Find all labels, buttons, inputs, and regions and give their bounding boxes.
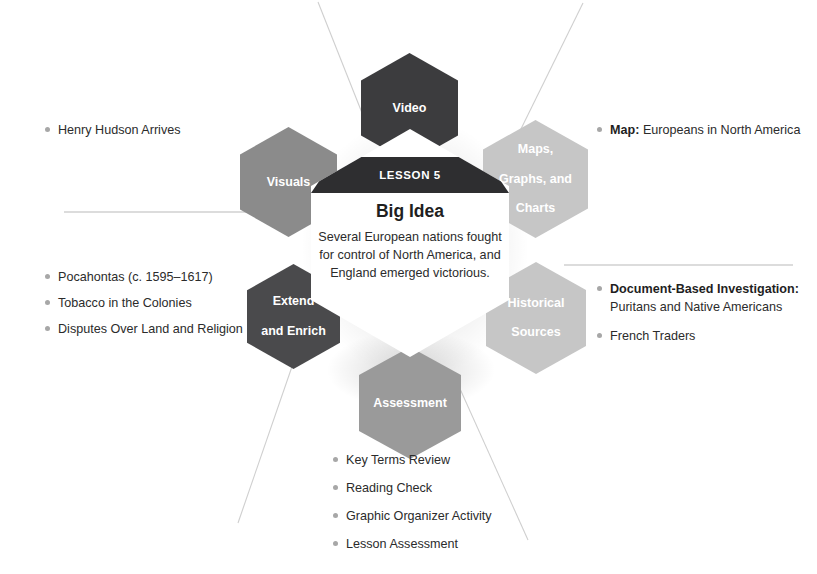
list-item-text: Pocahontas (c. 1595–1617) (58, 270, 213, 284)
list-item-text: Disputes Over Land and Religion (58, 322, 243, 336)
list-historical-sources: Document-Based Investigation: Puritans a… (597, 281, 799, 345)
list-item: Map: Europeans in North America (597, 122, 800, 139)
list-item: Key Terms Review (333, 452, 492, 469)
bullet-dot-icon (333, 541, 338, 546)
node-video-label: Video (387, 101, 433, 116)
list-item-text: Tobacco in the Colonies (58, 296, 192, 310)
lesson-number: LESSON 5 (379, 169, 441, 181)
node-assessment[interactable]: Assessment (359, 347, 461, 459)
list-item-text: French Traders (610, 329, 695, 343)
list-item-text: Lesson Assessment (346, 537, 458, 551)
list-item-text: Europeans in North America (639, 123, 800, 137)
list-item: Pocahontas (c. 1595–1617) (45, 269, 243, 286)
list-assessment: Key Terms Review Reading Check Graphic O… (333, 452, 492, 564)
node-historical-label-line2: Sources (502, 325, 571, 340)
lesson-banner: LESSON 5 (311, 157, 509, 193)
connector-extend-bottom (238, 355, 296, 523)
list-item: Tobacco in the Colonies (45, 295, 243, 312)
list-item-lead: Document-Based Investigation: (610, 282, 799, 296)
list-item: Lesson Assessment (333, 536, 492, 553)
node-maps-label-line1: Maps, (493, 142, 578, 157)
bullet-dot-icon (597, 333, 602, 338)
list-item: Disputes Over Land and Religion (45, 321, 243, 338)
node-extend-label-line2: and Enrich (255, 324, 332, 339)
bullet-dot-icon (597, 127, 602, 132)
list-item-subtext: Puritans and Native Americans (610, 299, 799, 316)
node-visuals-label: Visuals (261, 175, 317, 190)
list-item-text: Reading Check (346, 481, 432, 495)
bullet-dot-icon (45, 127, 50, 132)
big-idea-title: Big Idea (311, 201, 509, 222)
connector-video-left (318, 2, 368, 128)
bullet-dot-icon (45, 300, 50, 305)
list-item-text: Key Terms Review (346, 453, 450, 467)
bullet-dot-icon (45, 326, 50, 331)
center-big-idea-hexagon: LESSON 5 Big Idea Several European natio… (311, 129, 509, 357)
list-item: Document-Based Investigation: Puritans a… (597, 281, 799, 316)
list-item-text: Henry Hudson Arrives (58, 123, 181, 137)
list-item: Henry Hudson Arrives (45, 122, 181, 139)
list-extend-and-enrich: Pocahontas (c. 1595–1617) Tobacco in the… (45, 269, 243, 338)
big-idea-body: Several European nations fought for cont… (317, 229, 503, 283)
connector-maps-top (518, 3, 583, 135)
bullet-dot-icon (333, 485, 338, 490)
bullet-dot-icon (333, 513, 338, 518)
node-assessment-label: Assessment (367, 396, 453, 411)
list-item-lead: Map: (610, 123, 639, 137)
list-item: French Traders (597, 328, 799, 345)
node-historical-label: Historical Sources (496, 296, 577, 340)
list-maps-graphs-charts: Map: Europeans in North America (597, 122, 800, 139)
list-item: Reading Check (333, 480, 492, 497)
bullet-dot-icon (333, 457, 338, 462)
bullet-dot-icon (45, 274, 50, 279)
graphic-organizer: Video Visuals Maps, Graphs, and Charts E… (0, 0, 817, 574)
bullet-dot-icon (597, 286, 602, 291)
list-item-text: Graphic Organizer Activity (346, 509, 492, 523)
list-visuals: Henry Hudson Arrives (45, 122, 181, 139)
list-item: Graphic Organizer Activity (333, 508, 492, 525)
node-historical-label-line1: Historical (502, 296, 571, 311)
